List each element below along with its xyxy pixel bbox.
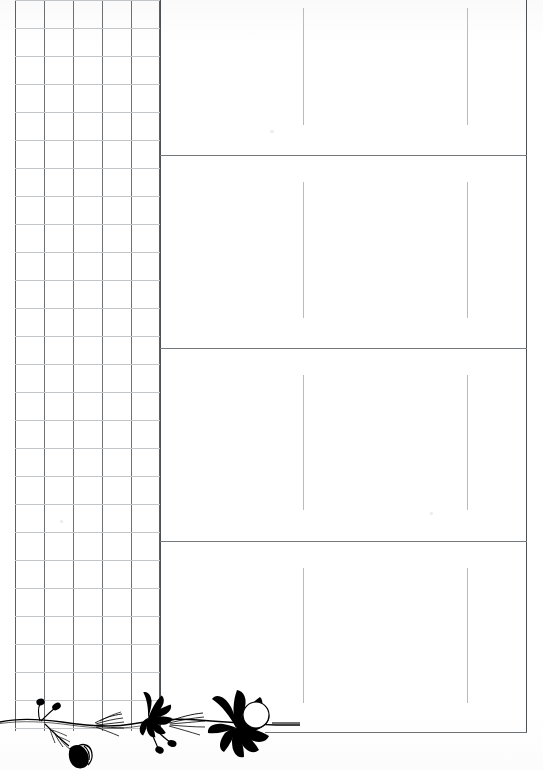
grid-row-line <box>15 224 160 225</box>
grid-row-line <box>15 700 160 701</box>
lined-sections-area <box>160 0 527 733</box>
section-1-guide-line-left <box>303 8 304 125</box>
grid-row-line <box>15 336 160 337</box>
grid-row-line <box>15 28 160 29</box>
grid-area <box>15 0 160 731</box>
section-3-guide-line-left <box>303 375 304 510</box>
scan-speck <box>60 520 63 523</box>
grid-row-line <box>15 196 160 197</box>
grid-row-line <box>15 504 160 505</box>
scan-speck <box>430 512 433 515</box>
section-4-guide-line-right <box>467 568 468 703</box>
section-divider-1 <box>160 155 527 156</box>
leaf-cluster-bottom <box>69 745 92 769</box>
grid-row-line <box>15 280 160 281</box>
grid-row-line <box>15 140 160 141</box>
grid-row-line <box>15 588 160 589</box>
grid-row-line <box>15 532 160 533</box>
grid-row-line <box>15 420 160 421</box>
grid-row-line <box>15 84 160 85</box>
grid-row-line <box>15 644 160 645</box>
grid-row-line <box>15 168 160 169</box>
page-bottom-border <box>265 732 527 733</box>
section-divider-3 <box>160 541 527 542</box>
section-2-guide-line-left <box>303 182 304 318</box>
page-right-border <box>526 0 527 733</box>
section-1-guide-line-right <box>467 8 468 125</box>
section-4-guide-line-left <box>303 568 304 703</box>
grid-column-line-2 <box>73 0 74 731</box>
grid-row-line <box>15 616 160 617</box>
grid-column-line-3 <box>102 0 103 731</box>
section-3-guide-line-right <box>467 375 468 510</box>
grid-row-line <box>15 392 160 393</box>
section-2-guide-line-right <box>467 182 468 318</box>
grid-row-line <box>15 560 160 561</box>
grid-row-line <box>15 364 160 365</box>
scan-speck <box>270 130 274 133</box>
notebook-page <box>0 0 543 770</box>
grid-column-line-4 <box>131 0 132 731</box>
grid-row-line <box>15 112 160 113</box>
grid-row-line <box>15 0 160 1</box>
grid-row-line <box>15 308 160 309</box>
grid-column-line-1 <box>44 0 45 731</box>
grid-row-line <box>15 448 160 449</box>
grid-row-line <box>15 476 160 477</box>
section-divider-2 <box>160 348 527 349</box>
grid-row-line <box>15 672 160 673</box>
grid-column-line-0 <box>15 0 16 731</box>
grid-row-line <box>15 252 160 253</box>
grid-row-line <box>15 728 160 729</box>
grid-row-line <box>15 56 160 57</box>
